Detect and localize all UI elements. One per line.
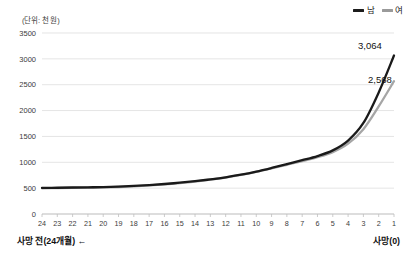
x-axis-tick-label: 22 [69, 219, 77, 228]
series-line-male [42, 56, 394, 188]
x-axis-tick-label: 13 [206, 219, 214, 228]
x-axis-tick-label: 12 [222, 219, 230, 228]
x-axis-tick-label: 14 [191, 219, 199, 228]
series-line-female [42, 81, 394, 188]
x-axis-tick-label: 11 [237, 219, 244, 228]
plot-area: 0500100015002000250030003500242322212019… [0, 0, 416, 254]
y-axis-tick-label: 3500 [19, 29, 36, 38]
x-axis-tick-label: 9 [270, 219, 274, 228]
x-axis-tick-label: 5 [331, 219, 335, 228]
chart-svg: 0500100015002000250030003500242322212019… [0, 0, 416, 254]
y-axis-tick-label: 2500 [19, 80, 36, 89]
y-axis-tick-label: 1500 [19, 132, 36, 141]
x-axis-tick-label: 3 [361, 219, 365, 228]
y-axis-tick-label: 1000 [19, 158, 36, 167]
footer-label-before-death: 사망 전(24개월) ← [17, 234, 86, 247]
x-axis-tick-label: 6 [315, 219, 319, 228]
y-axis-tick-label: 3000 [19, 55, 36, 64]
x-axis-tick-label: 2 [377, 219, 381, 228]
data-label-male: 3,064 [358, 40, 382, 51]
x-axis-tick-label: 4 [346, 219, 350, 228]
footer-label-death: 사망(0) [373, 234, 400, 247]
x-axis-tick-label: 1 [392, 219, 396, 228]
x-axis-tick-label: 15 [176, 219, 184, 228]
y-axis-tick-label: 0 [32, 210, 36, 219]
x-axis-tick-label: 18 [130, 219, 138, 228]
y-axis-tick-label: 500 [23, 184, 36, 193]
x-axis-tick-label: 17 [145, 219, 153, 228]
x-axis-tick-label: 19 [115, 219, 123, 228]
x-axis-tick-label: 21 [84, 219, 92, 228]
y-axis-tick-label: 2000 [19, 106, 36, 115]
data-label-female: 2,568 [368, 74, 392, 85]
x-axis-tick-label: 20 [99, 219, 107, 228]
chart-container: (단위: 천 원) 남 여 05001000150020002500300035… [0, 0, 416, 254]
x-axis-tick-label: 10 [252, 219, 260, 228]
x-axis-tick-label: 23 [53, 219, 61, 228]
x-axis-tick-label: 24 [38, 219, 46, 228]
x-axis-tick-label: 16 [160, 219, 168, 228]
x-axis-tick-label: 8 [285, 219, 289, 228]
x-axis-tick-label: 7 [300, 219, 304, 228]
